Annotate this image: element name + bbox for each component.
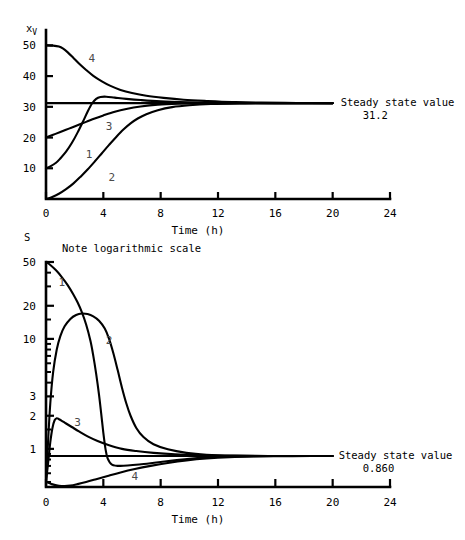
x-axis-title: Time (h): [172, 513, 225, 526]
x-tick-label: 4: [100, 207, 107, 220]
steady-state-label-line2: 31.2: [363, 109, 388, 121]
steady-state-label-line2: 0.860: [363, 462, 395, 474]
curve-label-1: 1: [58, 276, 65, 289]
log-scale-note: Note logarithmic scale: [62, 242, 201, 254]
x-tick-label: 24: [383, 496, 397, 509]
x-tick-label: 24: [383, 207, 397, 220]
x-tick-label: 4: [100, 496, 107, 509]
curve-4: [46, 456, 333, 486]
curve-1: [46, 262, 333, 466]
x-tick-label: 0: [43, 496, 50, 509]
curve-label-2: 2: [106, 334, 113, 347]
x-axis-title: Time (h): [172, 224, 225, 237]
x-tick-label: 12: [211, 496, 224, 509]
steady-state-label-line1: Steady state value: [341, 96, 455, 108]
y-tick-label: 3: [29, 390, 36, 403]
x-tick-label: 8: [157, 207, 164, 220]
curve-label-4: 4: [132, 470, 139, 483]
substrate-chart: 12310205004812162024SNote logarithmic sc…: [23, 231, 453, 526]
curve-label-1: 1: [86, 148, 93, 161]
y-tick-label: 30: [23, 101, 36, 114]
x-tick-label: 20: [326, 207, 339, 220]
x-tick-label: 12: [211, 207, 224, 220]
x-tick-label: 8: [157, 496, 164, 509]
x-tick-label: 16: [269, 207, 282, 220]
y-tick-label: 20: [23, 300, 36, 313]
y-tick-label: 10: [23, 333, 36, 346]
y-axis-label: xV: [26, 22, 37, 37]
y-tick-label: 50: [23, 256, 36, 269]
charts-canvas: 102030405004812162024xVTime (h)1234Stead…: [0, 0, 465, 540]
x-tick-label: 0: [43, 207, 50, 220]
x-tick-label: 20: [326, 496, 339, 509]
curve-label-3: 3: [106, 120, 113, 133]
y-tick-label: 20: [23, 132, 36, 145]
curve-3: [46, 418, 333, 482]
curve-label-3: 3: [74, 416, 81, 429]
curve-label-4: 4: [89, 52, 96, 65]
figure-container: 102030405004812162024xVTime (h)1234Stead…: [0, 0, 465, 540]
y-tick-label: 2: [29, 410, 36, 423]
chart-axes: [46, 30, 390, 199]
y-tick-label: 40: [23, 70, 36, 83]
x-tick-label: 16: [269, 496, 282, 509]
steady-state-label-line1: Steady state value: [339, 449, 453, 461]
y-tick-label: 10: [23, 162, 36, 175]
y-tick-label: 50: [23, 39, 36, 52]
y-tick-label: 1: [29, 443, 36, 456]
viable-biomass-chart: 102030405004812162024xVTime (h)1234Stead…: [23, 22, 455, 237]
curve-label-2: 2: [109, 171, 116, 184]
y-axis-label: S: [24, 231, 30, 243]
